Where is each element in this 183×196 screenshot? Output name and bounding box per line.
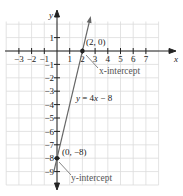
x-tick-label: 3 <box>93 54 98 64</box>
y-intercept-annotation: y-intercept <box>71 173 113 183</box>
y-axis-label: y <box>48 10 53 20</box>
x-axis-label: x <box>173 54 178 64</box>
y-intercept-point <box>55 156 60 161</box>
line-arrow-icon <box>87 16 92 23</box>
x-tick-label: 5 <box>118 54 123 64</box>
y-axis-down-arrow-icon <box>55 183 60 190</box>
x-tick-label: 7 <box>144 54 149 64</box>
equation-label: y = 4x − 8 <box>75 93 113 103</box>
y-tick-label: −5 <box>44 113 54 123</box>
y-tick-label: −1 <box>44 60 54 70</box>
y-tick-label: −4 <box>44 100 54 110</box>
grid <box>6 22 158 185</box>
y-tick-label: −3 <box>44 86 54 96</box>
y-tick-label: −8 <box>44 153 54 163</box>
graph: −3−2−112345671−1−2−3−4−5−6−7−8−9 x y (2,… <box>0 0 183 196</box>
x-tick-label: 6 <box>131 54 136 64</box>
x-tick-label: −2 <box>27 54 37 64</box>
x-intercept-annotation: x-intercept <box>99 66 141 76</box>
y-tick-label: −2 <box>44 73 54 83</box>
x-tick-label: 1 <box>67 54 72 64</box>
x-tick-label: 4 <box>106 54 111 64</box>
x-intercept-point <box>80 49 85 54</box>
y-tick-label: 1 <box>50 33 55 43</box>
y-tick-label: −7 <box>44 140 54 150</box>
y-tick-label: −6 <box>44 127 54 137</box>
y-intercept-coord-label: (0, −8) <box>62 147 87 157</box>
y-intercept-leader <box>59 162 71 175</box>
y-axis-arrow-icon <box>55 10 60 17</box>
x-intercept-coord-label: (2, 0) <box>86 37 106 47</box>
x-tick-label: −3 <box>14 54 24 64</box>
y-tick-label: −9 <box>44 167 54 177</box>
x-axis-arrow-icon <box>169 49 176 54</box>
